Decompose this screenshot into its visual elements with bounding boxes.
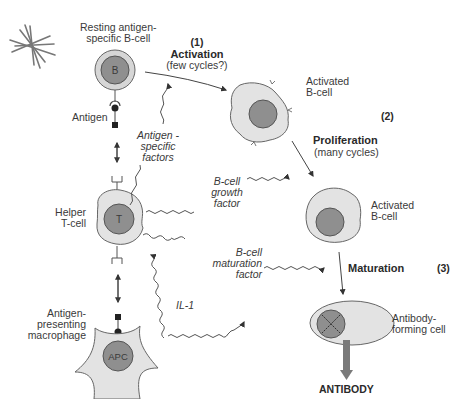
afc-line2: forming cell <box>392 324 446 335</box>
antibody-forming-cell <box>310 301 394 345</box>
apc-macrophage <box>75 326 158 399</box>
activated-bcell-2-label: Activated B-cell <box>371 200 414 222</box>
il1-wave-up <box>151 255 164 338</box>
step3-title: Maturation <box>348 263 404 274</box>
helper-tcell-label-line2: T-cell <box>48 218 86 229</box>
antibody-label: ANTIBODY <box>319 384 374 395</box>
antibody-forming-cell-label: Antibody- forming cell <box>392 313 446 335</box>
apc-label: Antigen- presenting macrophage <box>20 308 86 341</box>
resting-bcell-label: Resting antigen- specific B-cell <box>80 22 156 44</box>
step3-number: (3) <box>437 263 450 274</box>
asterisk-logo-icon <box>10 25 55 68</box>
bgf-line3: factor <box>205 198 249 209</box>
bcell-receptor-antigen <box>110 90 120 128</box>
proliferation-arrow <box>292 141 313 176</box>
il1-label: IL-1 <box>176 300 194 311</box>
antigen-label: Antigen <box>72 112 108 123</box>
apc-label-line3: macrophage <box>20 330 86 341</box>
activated-bcell-1-line2: B-cell <box>306 87 349 98</box>
il1-wave-right <box>168 322 244 338</box>
step2-number: (2) <box>381 111 394 122</box>
step2-title: Proliferation <box>313 135 378 146</box>
asf-line3: factors <box>137 152 179 163</box>
apc-antigen <box>115 314 122 336</box>
activated-bcell-1 <box>230 80 292 146</box>
step1-subtitle: (few cycles?) <box>164 60 230 71</box>
antigen-specific-factors-label: Antigen - specific factors <box>137 130 179 163</box>
bcell-growth-factor-label: B-cell growth factor <box>205 176 249 209</box>
bcell-maturation-factor-wave-mid <box>171 237 185 240</box>
activation-arrow <box>145 72 226 90</box>
bmf-line3: factor <box>200 269 262 280</box>
helper-tcell-label: Helper T-cell <box>48 207 86 229</box>
antibody-output-arrow <box>340 340 353 380</box>
resting-bcell-label-line2: specific B-cell <box>80 33 156 44</box>
activated-bcell-2-line2: B-cell <box>371 211 414 222</box>
maturation-arrow <box>339 252 343 294</box>
apc-nucleus-label: APC <box>103 351 133 362</box>
bcell-maturation-factor-label: B-cell maturation factor <box>200 247 262 280</box>
activated-bcell-2 <box>306 188 361 242</box>
b-nucleus-label: B <box>105 65 125 76</box>
t-nucleus-label: T <box>109 214 129 225</box>
activated-bcell-1-label: Activated B-cell <box>306 76 349 98</box>
tcell-receptor-bottom <box>112 246 122 264</box>
step2-subtitle: (many cycles) <box>314 147 379 158</box>
step1-number: (1) <box>172 37 222 48</box>
